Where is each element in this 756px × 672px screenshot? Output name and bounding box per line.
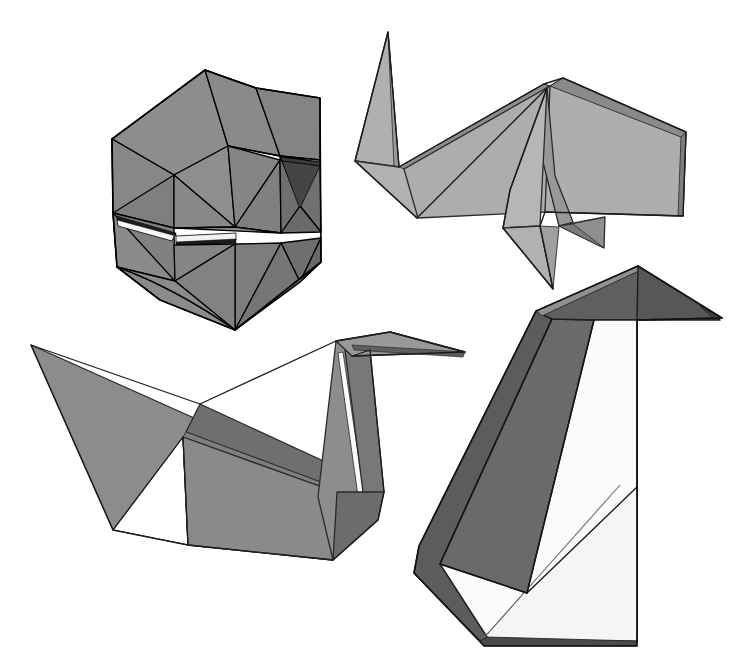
origami-illustration <box>0 0 756 672</box>
origami-scene-canvas: Faceted triangulated cube Folded paper b… <box>0 0 756 672</box>
